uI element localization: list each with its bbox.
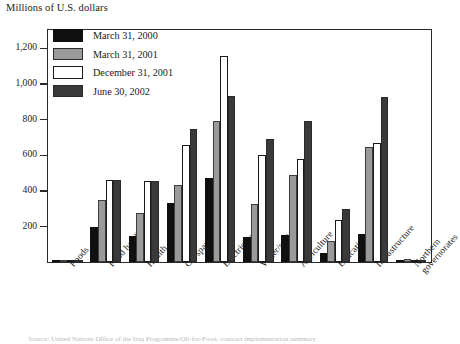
legend-item: March 31, 2001 bbox=[53, 46, 233, 63]
bar bbox=[396, 260, 404, 262]
bar bbox=[358, 234, 366, 263]
legend-item: June 30, 2002 bbox=[53, 83, 233, 100]
bar bbox=[90, 227, 98, 263]
y-axis-tick-mark bbox=[40, 226, 47, 227]
legend-swatch bbox=[53, 48, 83, 61]
bar bbox=[167, 203, 175, 263]
bar bbox=[381, 97, 389, 262]
bar bbox=[174, 185, 182, 263]
bar bbox=[342, 209, 350, 263]
bar bbox=[52, 260, 60, 262]
bar bbox=[404, 259, 412, 263]
legend-label: March 31, 2001 bbox=[93, 49, 158, 60]
bar bbox=[98, 200, 106, 262]
bar-group bbox=[239, 30, 277, 262]
y-axis-tick-label: 1,200 bbox=[15, 41, 37, 52]
legend-item: December 31, 2001 bbox=[53, 64, 233, 81]
y-axis-tick-label: 1,000 bbox=[15, 77, 37, 88]
bar-group bbox=[316, 30, 354, 262]
bar bbox=[182, 145, 190, 263]
bar bbox=[373, 143, 381, 263]
bar bbox=[243, 237, 251, 262]
bar bbox=[320, 253, 328, 263]
bar bbox=[60, 260, 68, 262]
legend-label: December 31, 2001 bbox=[93, 67, 173, 78]
bar bbox=[113, 180, 121, 262]
bar bbox=[228, 96, 236, 263]
bar bbox=[205, 178, 213, 263]
legend-item: March 31, 2000 bbox=[53, 27, 233, 44]
bar bbox=[289, 175, 297, 262]
bar bbox=[327, 241, 335, 262]
chart-title: Millions of U.S. dollars bbox=[6, 2, 108, 13]
legend-swatch bbox=[53, 29, 83, 42]
chart-footnote: Source: United Nations Office of the Ira… bbox=[28, 335, 428, 344]
bar-group bbox=[278, 30, 316, 262]
bar bbox=[144, 181, 152, 262]
chart-legend: March 31, 2000March 31, 2001December 31,… bbox=[53, 27, 233, 101]
y-axis-tick-mark bbox=[40, 48, 47, 49]
bar-group bbox=[354, 30, 392, 262]
y-axis-tick-mark bbox=[40, 119, 47, 120]
bar bbox=[67, 260, 75, 262]
bar bbox=[365, 147, 373, 262]
y-axis: 2004006008001,0001,200 bbox=[0, 29, 47, 263]
bar bbox=[106, 180, 114, 262]
bar bbox=[151, 181, 159, 262]
y-axis-tick-label: 600 bbox=[23, 148, 37, 159]
legend-label: June 30, 2002 bbox=[93, 86, 150, 97]
bar bbox=[335, 220, 343, 262]
bar bbox=[266, 139, 274, 262]
bar bbox=[281, 235, 289, 263]
bar bbox=[258, 155, 266, 262]
y-axis-tick-mark bbox=[40, 155, 47, 156]
bar bbox=[190, 129, 198, 262]
bar bbox=[419, 260, 427, 262]
bar bbox=[411, 260, 419, 262]
y-axis-tick-mark bbox=[40, 83, 47, 84]
bar bbox=[129, 236, 137, 263]
legend-label: March 31, 2000 bbox=[93, 30, 158, 41]
bar bbox=[213, 121, 221, 262]
bar bbox=[297, 159, 305, 263]
bar bbox=[220, 56, 228, 262]
bar bbox=[304, 121, 312, 262]
y-axis-tick-label: 800 bbox=[23, 113, 37, 124]
bar bbox=[251, 204, 259, 263]
x-axis-labels: FoodsFood handlingHealthOil sparesElectr… bbox=[48, 265, 430, 339]
bar bbox=[136, 213, 144, 262]
y-axis-tick-mark bbox=[40, 190, 47, 191]
y-axis-tick-label: 200 bbox=[23, 220, 37, 231]
legend-swatch bbox=[53, 66, 83, 79]
bar bbox=[75, 260, 83, 262]
legend-swatch bbox=[53, 85, 83, 98]
y-axis-tick-label: 400 bbox=[23, 184, 37, 195]
